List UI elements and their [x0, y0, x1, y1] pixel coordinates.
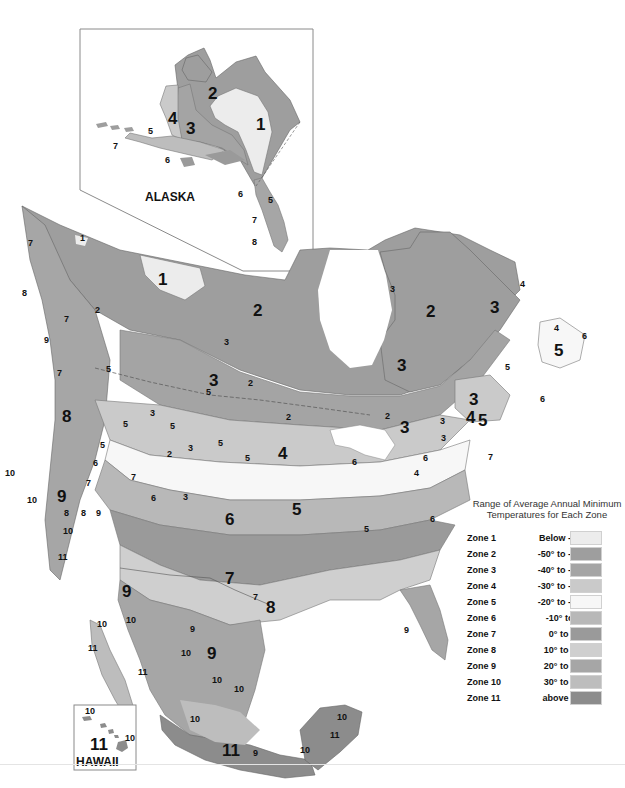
alaska-zone-label-4: 4	[168, 109, 178, 128]
zone-label: 2	[286, 412, 291, 422]
zone-label: 6	[540, 394, 545, 404]
legend-zone-label: Zone 7	[467, 629, 496, 639]
zone-label: 10	[27, 495, 37, 505]
legend-row-zone-2: Zone 2 -50° to -40°F	[452, 547, 622, 562]
legend-swatch	[570, 691, 602, 705]
zone-label: 10	[300, 745, 310, 755]
zone-label: 5	[170, 421, 175, 431]
legend-swatch	[570, 579, 602, 593]
zone-label: 8	[81, 508, 86, 518]
legend-zone-label: Zone 8	[467, 645, 496, 655]
legend-row-zone-3: Zone 3 -40° to -30°F	[452, 563, 622, 578]
zone-label: 4	[278, 444, 288, 463]
baja-california	[90, 620, 135, 718]
legend-swatch	[570, 595, 602, 609]
zone-label: 7	[253, 592, 258, 602]
zone-label: 7	[225, 569, 234, 588]
alaska-zone-label-8: 8	[252, 237, 257, 247]
zone-label: 2	[248, 378, 253, 388]
zone-label: 10	[212, 675, 222, 685]
legend-zone-label: Zone 2	[467, 549, 496, 559]
zone-label: 7	[86, 478, 91, 488]
zone-label: 4	[520, 279, 525, 289]
legend-zone-label: Zone 11	[467, 693, 501, 703]
zone-label: 6	[225, 510, 234, 529]
zone-label: 6	[423, 453, 428, 463]
legend-title-line2: Temperatures for Each Zone	[472, 509, 622, 520]
zone-label: 4	[554, 323, 559, 333]
legend-row-zone-1: Zone 1 Below -50°F	[452, 531, 622, 546]
legend-row-zone-6: Zone 6 -10° to 0°F	[452, 611, 622, 626]
zone-label: 6	[352, 457, 357, 467]
zone-label: 2	[95, 305, 100, 315]
hawaii-zone-label-10a: 10	[85, 706, 95, 716]
zone-label: 9	[96, 508, 101, 518]
legend-swatch	[570, 675, 602, 689]
hawaii-title: HAWAII	[76, 755, 119, 769]
zone-label: 2	[426, 302, 435, 321]
legend-zone-label: Zone 10	[467, 677, 501, 687]
zone-label: 5	[100, 440, 105, 450]
zone-label: 6	[151, 493, 156, 503]
legend-swatch	[570, 659, 602, 673]
zone-label: 3	[441, 433, 446, 443]
zone-label: 3	[469, 390, 478, 409]
alaska-zone-label-5b: 5	[268, 195, 273, 205]
legend-row-zone-10: Zone 10 30° to 40°F	[452, 675, 622, 690]
legend-row-zone-5: Zone 5 -20° to -10°F	[452, 595, 622, 610]
zone-label: 5	[218, 438, 223, 448]
bottom-divider	[0, 764, 625, 765]
zone-label: 8	[62, 407, 71, 426]
zone-label: 5	[106, 364, 111, 374]
zone-label: 3	[397, 356, 406, 375]
zone-label: 10	[97, 619, 107, 629]
legend-swatch	[570, 627, 602, 641]
legend-zone-label: Zone 9	[467, 661, 496, 671]
zone-label: 2	[167, 449, 172, 459]
legend-row-zone-4: Zone 4 -30° to -20°F	[452, 579, 622, 594]
zone-label: 11	[222, 741, 240, 760]
zone-label: 9	[57, 487, 66, 506]
hawaii-inset: 11 10 10 HAWAII	[74, 705, 136, 770]
zone-label: 5	[505, 362, 510, 372]
zone-label: 3	[150, 408, 155, 418]
zone-label: 5	[123, 419, 128, 429]
zone-label: 5	[206, 387, 211, 397]
zone-label: 10	[63, 526, 73, 536]
zone-label: 8	[266, 598, 275, 617]
alaska-zone-label-5: 5	[148, 126, 153, 136]
zone-label: 7	[64, 314, 69, 324]
zone-label: 3	[390, 284, 395, 294]
florida	[400, 585, 448, 660]
zone-label: 5	[554, 341, 563, 360]
zone-label: 5	[478, 411, 487, 430]
zone-label: 8	[22, 288, 27, 298]
zone-label: 6	[430, 514, 435, 524]
zone-label: 7	[488, 452, 493, 462]
zone-label: 9	[207, 644, 216, 663]
zone-label: 2	[253, 301, 262, 320]
zone-label: 6	[582, 331, 587, 341]
zone-label: 5	[292, 500, 301, 519]
legend-zone-label: Zone 3	[467, 565, 496, 575]
zone-label: 3	[440, 416, 445, 426]
zone-label: 9	[122, 582, 131, 601]
legend-row-zone-7: Zone 7 0° to 10°F	[452, 627, 622, 642]
legend-row-zone-11: Zone 11 above 40°F	[452, 691, 622, 706]
legend-row-zone-8: Zone 8 10° to 20°F	[452, 643, 622, 658]
legend-zone-label: Zone 4	[467, 581, 496, 591]
alaska-zone-label-3: 3	[186, 119, 195, 138]
zone-label: 1	[80, 233, 85, 243]
alaska-zone-label-6b: 6	[238, 189, 243, 199]
zone-label: 10	[126, 615, 136, 625]
zone-label: 7	[28, 238, 33, 248]
zone-label: 9	[44, 335, 49, 345]
legend-swatch	[570, 531, 602, 545]
zone-label: 7	[57, 368, 62, 378]
legend-swatch	[570, 563, 602, 577]
legend-title-line1: Range of Average Annual Minimum	[472, 498, 622, 509]
zone-label: 2	[385, 411, 390, 421]
zone-label: 4	[466, 408, 476, 427]
alaska-zone-label-7b: 7	[252, 215, 257, 225]
zone-label: 11	[138, 667, 148, 677]
